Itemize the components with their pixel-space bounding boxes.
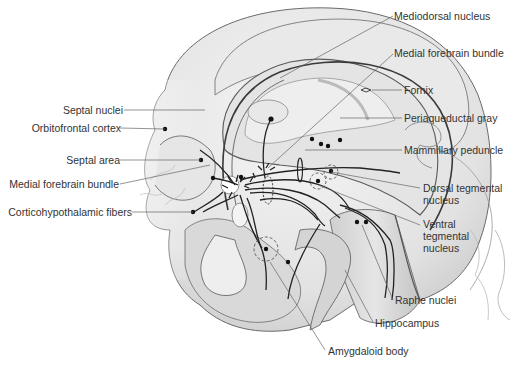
label-septal-nuclei: Septal nuclei bbox=[63, 104, 123, 116]
label-septal-area: Septal area bbox=[66, 154, 120, 166]
label-raphe-nuclei: Raphe nuclei bbox=[395, 294, 456, 306]
label-corticohypothalamic-fibers: Corticohypothalamic fibers bbox=[8, 206, 132, 218]
label-fornix: Fornix bbox=[404, 84, 433, 96]
label-medial-forebrain-bundle-left: Medial forebrain bundle bbox=[9, 178, 119, 190]
label-mediodorsal-nucleus: Mediodorsal nucleus bbox=[394, 10, 490, 22]
label-amygdaloid-body: Amygdaloid body bbox=[328, 345, 409, 357]
mediodorsal-nucleus-shape bbox=[248, 100, 288, 124]
label-ventral-tegmental-nucleus: Ventral tegmental nucleus bbox=[423, 218, 503, 254]
label-medial-forebrain-bundle-right: Medial forebrain bundle bbox=[394, 47, 504, 59]
brain-pathway-diagram: Septal nuclei Orbitofrontal cortex Septa… bbox=[0, 0, 515, 365]
label-hippocampus: Hippocampus bbox=[375, 317, 439, 329]
label-dorsal-tegmental-nucleus: Dorsal tegmental nucleus bbox=[423, 182, 503, 206]
label-mammillary-peduncle: Mammillary peduncle bbox=[404, 144, 503, 156]
label-periaqueductal-gray: Periaqueductal gray bbox=[404, 112, 497, 124]
label-orbitofrontal-cortex: Orbitofrontal cortex bbox=[32, 122, 121, 134]
